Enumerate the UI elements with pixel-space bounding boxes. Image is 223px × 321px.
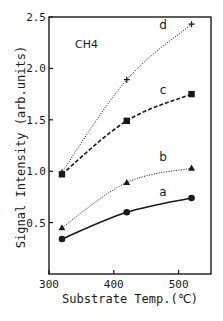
y-tick-label: 2.0	[26, 62, 46, 75]
series-label-a: a	[159, 185, 166, 199]
chart: 3004005000.51.01.52.02.5 abcd CH4 Substr…	[0, 0, 223, 321]
series-label-c: c	[160, 83, 167, 97]
x-tick-label: 400	[104, 278, 124, 291]
y-tick-label: 0.5	[26, 217, 46, 230]
marker-triangle	[188, 165, 195, 171]
series-label-d: d	[159, 18, 167, 32]
chart-annotation: CH4	[75, 38, 98, 51]
marker-square	[124, 118, 130, 124]
series-label-b: b	[159, 150, 167, 164]
x-tick-label: 500	[169, 278, 189, 291]
series-line	[62, 94, 192, 174]
marker-circle	[59, 236, 66, 243]
y-tick-label: 2.5	[26, 11, 46, 24]
series-c: c	[59, 83, 195, 177]
plot-border	[49, 17, 211, 274]
series-line	[62, 168, 192, 228]
series-line	[62, 198, 192, 239]
series-layer: abcd	[59, 18, 195, 242]
series-a: a	[59, 185, 195, 243]
marker-triangle	[59, 224, 66, 230]
y-axis-label: Signal Intensity (arb.units)	[14, 46, 28, 248]
marker-circle	[123, 209, 130, 216]
marker-circle	[188, 195, 195, 202]
x-tick-label: 300	[39, 278, 59, 291]
y-tick-label: 1.0	[26, 165, 46, 178]
x-axis-label: Substrate Temp.(℃)	[62, 292, 198, 306]
y-tick-label: 1.5	[26, 114, 46, 127]
marker-triangle	[123, 179, 130, 185]
marker-square	[188, 91, 194, 97]
plot-frame: 3004005000.51.01.52.02.5	[26, 11, 211, 291]
series-b: b	[59, 150, 195, 231]
